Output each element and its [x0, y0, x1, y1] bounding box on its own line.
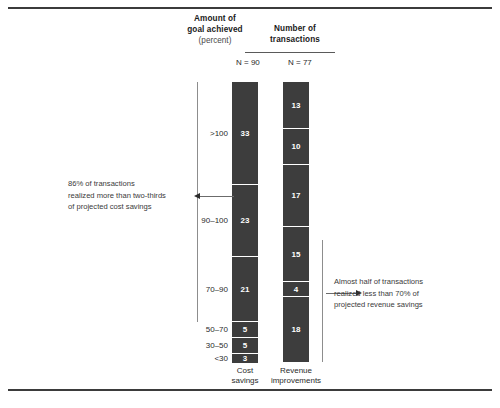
segment-value-revenue-4: 4 [294, 285, 298, 294]
right-heading-line2: transactions [240, 34, 350, 45]
segment-cost-3: 5 [232, 322, 258, 338]
bar-revenue-improvements: 13101715418 [283, 82, 309, 362]
segment-value-revenue-5: 18 [292, 325, 301, 334]
annotation-cost-line1: 86% of transactions [68, 178, 194, 190]
annotation-cost-line2: realized more than two-thirds [68, 190, 194, 202]
segment-value-revenue-1: 10 [292, 142, 301, 151]
category-label-1: 90–100 [176, 216, 228, 225]
leader-line-left [200, 196, 234, 197]
segment-value-cost-1: 23 [241, 216, 250, 225]
n-label-revenue: N = 77 [288, 58, 312, 67]
category-label-5: <30 [176, 354, 228, 363]
segment-value-cost-2: 21 [241, 285, 250, 294]
segment-revenue-2: 17 [283, 165, 309, 227]
segment-value-cost-5: 3 [243, 354, 247, 363]
segment-cost-2: 21 [232, 257, 258, 322]
segment-cost-1: 23 [232, 185, 258, 257]
annotation-cost-savings: 86% of transactions realized more than t… [68, 178, 194, 213]
annotation-revenue-line3: projected revenue savings [334, 299, 484, 311]
exhibit-figure: Amount of goal achieved (percent) Number… [0, 0, 500, 408]
segment-value-cost-0: 33 [241, 129, 250, 138]
annotation-revenue-line1: Almost half of transactions [334, 276, 484, 288]
segment-value-cost-4: 5 [243, 341, 247, 350]
segment-value-cost-3: 5 [243, 325, 247, 334]
top-rule [8, 7, 492, 9]
category-label-column: >10090–10070–9050–7030–50<30 [174, 82, 228, 362]
bar-cost-savings: 332321553 [232, 82, 258, 363]
segment-revenue-0: 13 [283, 82, 309, 129]
category-label-2: 70–90 [176, 285, 228, 294]
segment-value-revenue-0: 13 [292, 101, 301, 110]
bracket-left [197, 82, 198, 322]
arrow-left-icon [194, 193, 200, 199]
category-label-3: 50–70 [176, 325, 228, 334]
category-label-4: 30–50 [176, 341, 228, 350]
segment-cost-4: 5 [232, 338, 258, 354]
heading-underline [245, 52, 335, 53]
n-label-cost: N = 90 [236, 58, 260, 67]
category-label-0: >100 [176, 129, 228, 138]
segment-value-revenue-2: 17 [292, 191, 301, 200]
segment-value-revenue-3: 15 [292, 250, 301, 259]
segment-revenue-1: 10 [283, 129, 309, 165]
segment-revenue-5: 18 [283, 297, 309, 362]
series-label-revenue-line1: Revenue [280, 366, 312, 375]
annotation-revenue-improvements: Almost half of transactions realized les… [334, 276, 484, 311]
segment-revenue-3: 15 [283, 227, 309, 282]
right-heading-line1: Number of [240, 23, 350, 34]
series-label-revenue-improvements: Revenue improvements [259, 366, 333, 386]
bracket-right [322, 240, 323, 362]
annotation-revenue-line2: realized less than 70% of [334, 288, 484, 300]
bottom-rule [8, 389, 492, 391]
right-column-heading: Number of transactions [240, 23, 350, 45]
segment-cost-5: 3 [232, 354, 258, 363]
series-label-revenue-line2: improvements [271, 376, 321, 385]
segment-revenue-4: 4 [283, 282, 309, 297]
series-label-cost-line1: Cost [237, 366, 253, 375]
annotation-cost-line3: of projected cost savings [68, 201, 194, 213]
segment-cost-0: 33 [232, 82, 258, 185]
series-label-cost-line2: savings [231, 376, 258, 385]
